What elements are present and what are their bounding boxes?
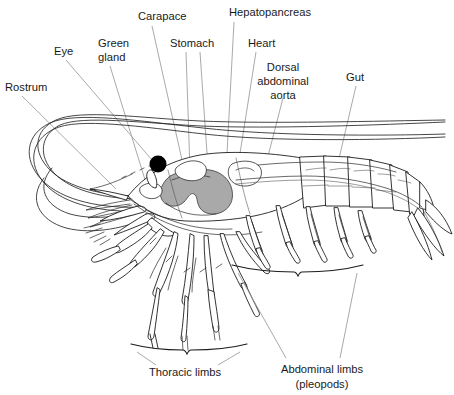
label-abdominal-limbs-line1: Abdominal limbs [281,363,363,375]
label-heart: Heart [248,37,276,49]
prawn-body [90,152,452,260]
label-gut: Gut [346,71,365,83]
label-rostrum: Rostrum [5,81,47,93]
label-dorsal-aorta-line1: Dorsal [267,61,299,73]
thoracic-leg-2-claw [110,260,137,283]
label-thoracic-limbs: Thoracic limbs [149,366,222,378]
abdominal-bracket-leader-right [340,273,357,358]
thoracic-bracket-leader-left [137,352,156,365]
thoracic-leg-5-lower [208,290,219,332]
thoracic-leg-6-lower [241,283,259,317]
diagram-canvas: Rostrum Eye Green gland Carapace Stomach… [0,0,454,395]
abdominal-limbs-bracket [232,265,363,276]
leader-eye [66,60,152,160]
label-stomach: Stomach [170,37,214,49]
leader-stomach [186,52,190,170]
leader-hepatopancreas [226,22,234,172]
label-hepatopancreas: Hepatopancreas [229,6,312,18]
thoracic-bracket-leader-right [218,352,240,365]
label-dorsal-aorta-line3: aorta [270,89,296,101]
leader-stomach-b [200,52,208,168]
prawn-anatomy-diagram: Rostrum Eye Green gland Carapace Stomach… [0,0,454,395]
eye-icon [150,156,167,173]
rostrum-spike [90,189,128,200]
mouthpart-bristles [84,224,110,245]
abdominal-limbs-group [246,206,376,269]
abdominal-bracket-leader-left [238,273,286,358]
abdomen-segment-1 [300,156,328,208]
label-dorsal-aorta-line2: abdominal [257,75,309,87]
leader-heart [238,52,256,166]
label-abdominal-limbs-line2: (pleopods) [296,378,349,390]
label-green-gland-line2: gland [98,51,125,63]
label-green-gland-line1: Green [98,37,129,49]
label-carapace: Carapace [138,10,187,22]
label-eye: Eye [54,45,73,57]
leader-rostrum [22,96,116,189]
pleopod-2-branch [286,242,300,263]
thoracic-limbs-bracket [131,344,247,354]
thoracic-limbs-group [92,224,270,350]
thoracic-leg-5 [204,236,214,299]
antennule-1 [86,200,130,210]
thoracic-leg-1-claw [92,246,120,262]
